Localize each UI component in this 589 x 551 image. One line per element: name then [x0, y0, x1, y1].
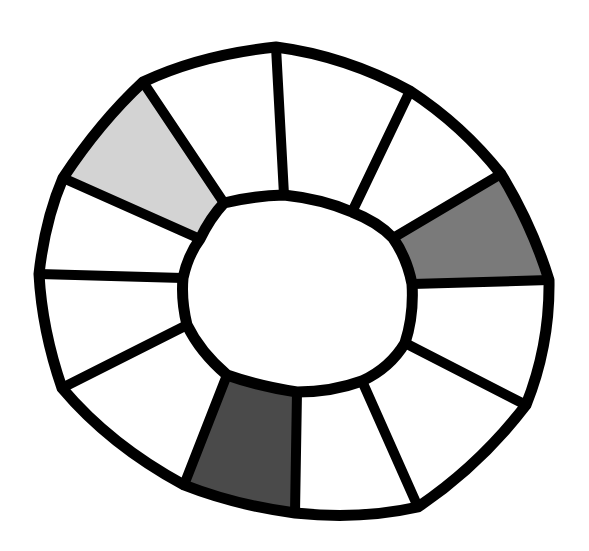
divider-line-7	[295, 392, 297, 513]
divider-line-10	[39, 274, 183, 278]
segmented-ring-diagram	[0, 0, 589, 551]
divider-line-4	[412, 280, 549, 284]
center-hole	[183, 195, 413, 392]
